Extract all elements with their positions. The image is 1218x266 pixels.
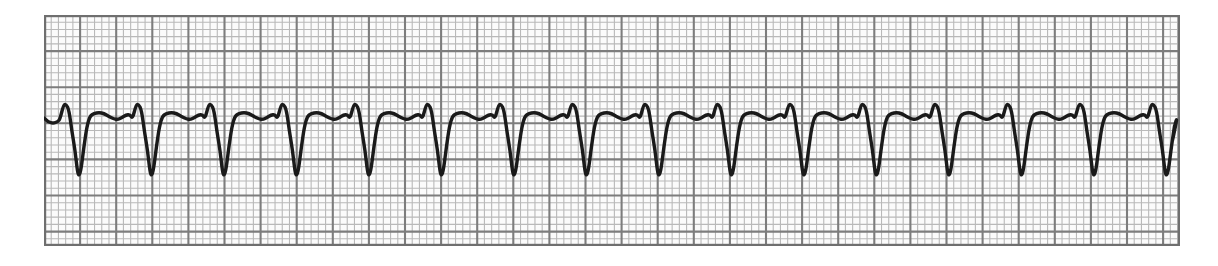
ecg-strip	[44, 15, 1180, 246]
ecg-waveform-trace	[44, 15, 1180, 246]
ecg-trace-path	[44, 104, 1177, 174]
ecg-page	[0, 0, 1218, 266]
